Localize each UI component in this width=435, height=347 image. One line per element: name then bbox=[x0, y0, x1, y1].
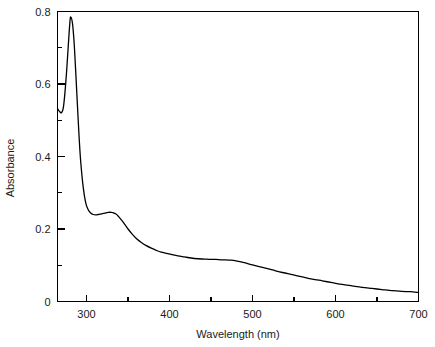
y-tick-label: 0.2 bbox=[35, 223, 50, 235]
y-tick-label: 0.8 bbox=[35, 6, 50, 18]
x-tick-label: 600 bbox=[326, 308, 344, 320]
x-tick-label: 700 bbox=[409, 308, 427, 320]
x-tick-label: 400 bbox=[160, 308, 178, 320]
y-tick-label: 0 bbox=[44, 296, 50, 308]
y-axis-title: Absorbance bbox=[4, 139, 16, 198]
figure-background bbox=[0, 0, 435, 347]
y-tick-label: 0.4 bbox=[35, 151, 50, 163]
x-axis-title: Wavelength (nm) bbox=[196, 328, 279, 340]
x-tick-label: 500 bbox=[243, 308, 261, 320]
x-tick-label: 300 bbox=[77, 308, 95, 320]
y-tick-label: 0.6 bbox=[35, 78, 50, 90]
spectrum-plot: 300400500600700 00.20.40.60.8 Wavelength… bbox=[0, 0, 435, 347]
absorbance-spectrum-figure: 300400500600700 00.20.40.60.8 Wavelength… bbox=[0, 0, 435, 347]
